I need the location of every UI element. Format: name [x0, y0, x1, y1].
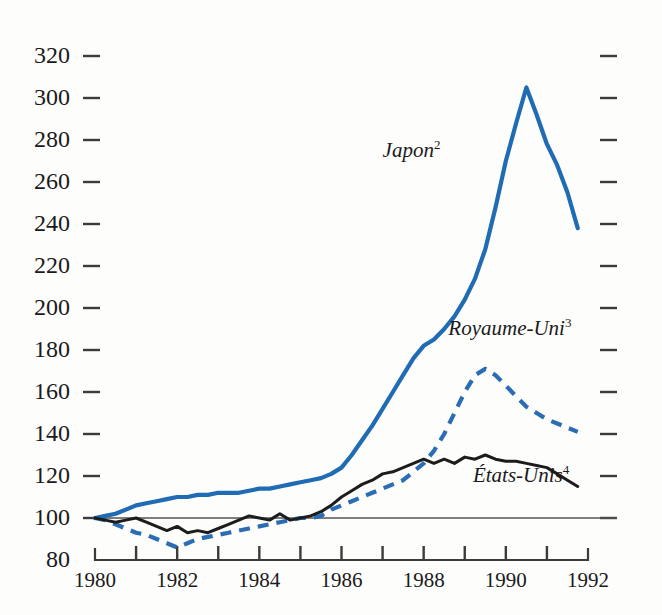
- series-line-royaume-uni: [95, 369, 578, 548]
- x-tick-label: 1980: [74, 568, 116, 592]
- x-tick-label: 1982: [156, 568, 198, 592]
- y-tick-label: 160: [34, 378, 70, 404]
- series-label-royaume-uni: Royaume-Uni3: [447, 315, 571, 340]
- line-chart: 80100120140160180200220240260280300320 1…: [0, 0, 662, 615]
- y-tick-label: 260: [34, 168, 70, 194]
- y-tick-label: 300: [34, 84, 70, 110]
- y-tick-label: 120: [34, 462, 70, 488]
- chart-container: 80100120140160180200220240260280300320 1…: [0, 0, 662, 615]
- series-footnote-marker: 2: [434, 137, 441, 152]
- y-tick-label: 100: [34, 504, 70, 530]
- y-tick-label: 280: [34, 126, 70, 152]
- y-tick-label: 220: [34, 252, 70, 278]
- x-tick-label: 1986: [321, 568, 363, 592]
- y-tick-label: 80: [46, 546, 70, 572]
- y-tick-label: 240: [34, 210, 70, 236]
- x-tick-label: 1984: [238, 568, 281, 592]
- x-tick-label: 1988: [403, 568, 445, 592]
- series-footnote-marker: 3: [565, 315, 572, 330]
- y-tick-label: 180: [34, 336, 70, 362]
- x-axis: [95, 546, 588, 560]
- y-tick-label: 200: [34, 294, 70, 320]
- series-label-japon: Japon2: [383, 137, 441, 162]
- y-axis-tick-marks-left: [83, 56, 100, 518]
- y-axis-tick-labels: 80100120140160180200220240260280300320: [34, 42, 70, 572]
- y-tick-label: 320: [34, 42, 70, 68]
- series-footnote-marker: 4: [563, 462, 570, 477]
- x-axis-tick-labels: 1980198219841986198819901992: [74, 568, 609, 592]
- series-line-japon: [95, 88, 578, 519]
- y-tick-label: 140: [34, 420, 70, 446]
- series-label--tats-unis: États-Unis4: [472, 462, 570, 487]
- x-tick-label: 1990: [485, 568, 527, 592]
- x-tick-label: 1992: [567, 568, 609, 592]
- series-annotations: Japon2Royaume-Uni3États-Unis4: [383, 137, 572, 488]
- y-axis-tick-marks-right: [600, 56, 617, 518]
